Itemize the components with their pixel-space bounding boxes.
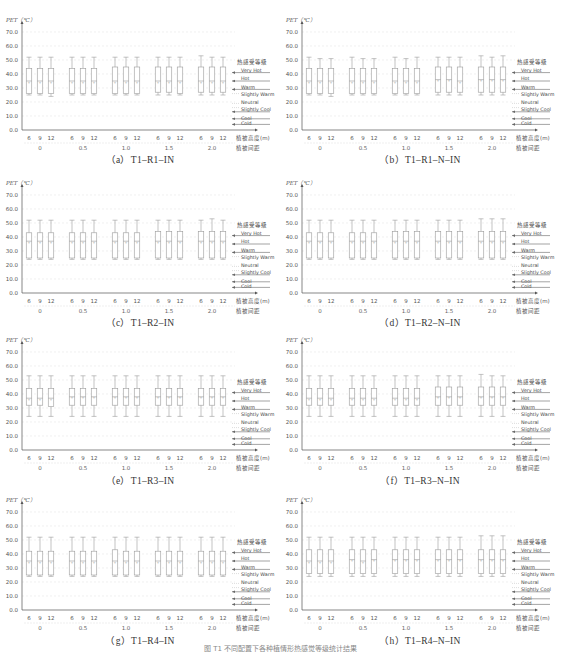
box-0.5-6: +: [349, 57, 355, 95]
x-inner-tick-label: 6: [156, 135, 160, 141]
svg-text:+: +: [405, 398, 408, 402]
x-inner-tick-label: 9: [167, 615, 171, 621]
box-1.5-12: +: [177, 376, 183, 417]
box-2.0-9: +: [489, 376, 495, 417]
y-tick-label: 50.0: [286, 537, 299, 543]
x-outer-tick-label: 1.0: [402, 465, 411, 471]
x-inner-tick-label: 6: [436, 455, 440, 461]
x-inner-tick-label: 12: [500, 615, 507, 621]
x-outer-tick-label: 1.5: [165, 465, 174, 471]
svg-text:+: +: [330, 241, 333, 245]
legend-item-hot: Hot: [241, 396, 250, 401]
x-inner-tick-label: 9: [38, 298, 42, 304]
x-inner-tick-label: 6: [199, 298, 203, 304]
svg-text:热感受等级: 热感受等级: [517, 378, 547, 386]
svg-text:+: +: [93, 81, 96, 85]
x-inner-axis-label: 植被高度(m): [236, 614, 270, 622]
x-inner-tick-label: 12: [457, 615, 464, 621]
y-tick-label: 40.0: [6, 391, 19, 397]
svg-text:+: +: [330, 561, 333, 565]
x-inner-tick-label: 9: [447, 135, 451, 141]
x-inner-tick-label: 9: [490, 298, 494, 304]
svg-text:+: +: [39, 561, 42, 565]
x-inner-tick-label: 12: [500, 455, 507, 461]
legend-item-slightly-cool: Slightly Cool: [521, 107, 551, 112]
x-inner-tick-label: 12: [328, 298, 335, 304]
x-outer-tick-label: 1.5: [445, 465, 454, 471]
box-1.5-6: +: [435, 537, 441, 576]
y-tick-label: 30.0: [286, 565, 299, 571]
svg-text:+: +: [319, 398, 322, 402]
legend-item-slightly-warm: Slightly Warm: [521, 255, 555, 260]
box-0.5-9: +: [360, 220, 366, 259]
x-inner-tick-label: 6: [113, 455, 117, 461]
x-inner-tick-label: 6: [350, 615, 354, 621]
x-inner-tick-label: 12: [457, 135, 464, 141]
legend-item-cool: Cool: [521, 279, 532, 284]
box-0.5-9: +: [360, 59, 366, 95]
x-inner-tick-label: 6: [436, 135, 440, 141]
svg-text:+: +: [50, 561, 53, 565]
svg-text:+: +: [373, 241, 376, 245]
y-tick-label: 40.0: [286, 391, 299, 397]
y-tick-label: 40.0: [286, 234, 299, 240]
legend-item-slightly-warm: Slightly Warm: [521, 92, 555, 97]
legend-item-warm: Warm: [521, 405, 535, 410]
x-outer-tick-label: 1.5: [445, 308, 454, 314]
x-outer-axis-label: 植被间距: [516, 624, 540, 632]
box-1.5-12: +: [457, 537, 463, 576]
box-plot: PET（℃）70.060.050.040.030.020.010.00.0+6+…: [0, 482, 280, 632]
svg-text:+: +: [71, 396, 74, 400]
x-inner-tick-label: 6: [350, 135, 354, 141]
legend-item-slightly-warm: Slightly Warm: [241, 412, 275, 417]
y-tick-label: 70.0: [6, 349, 19, 355]
legend-item-warm: Warm: [241, 85, 255, 90]
svg-text:+: +: [351, 81, 354, 85]
y-tick-label: 30.0: [286, 85, 299, 91]
box-1.5-9: +: [166, 376, 172, 417]
svg-text:+: +: [416, 398, 419, 402]
x-inner-tick-label: 6: [436, 298, 440, 304]
y-tick-label: 70.0: [6, 29, 19, 35]
box-plot: PET（℃）70.060.050.040.030.020.010.00.0+6+…: [280, 322, 560, 472]
x-inner-tick-label: 9: [81, 135, 85, 141]
legend-item-cool: Cool: [241, 279, 252, 284]
svg-text:+: +: [491, 241, 494, 245]
box-1.0-12: +: [414, 220, 420, 259]
box-0-12: +: [48, 57, 54, 96]
box-0.5-12: +: [91, 537, 97, 576]
x-inner-tick-label: 6: [479, 135, 483, 141]
x-inner-tick-label: 6: [113, 615, 117, 621]
svg-text:+: +: [114, 561, 117, 565]
x-inner-axis-label: 植被高度(m): [236, 297, 270, 305]
x-inner-tick-label: 6: [479, 455, 483, 461]
box-plot: PET（℃）70.060.050.040.030.020.010.00.0+6+…: [0, 2, 280, 152]
chart-panel-g: PET（℃）70.060.050.040.030.020.010.00.0+6+…: [0, 482, 280, 642]
chart-panel-e: PET（℃）70.060.050.040.030.020.010.00.0+6+…: [0, 322, 280, 482]
y-tick-label: 0.0: [9, 607, 18, 613]
x-inner-tick-label: 9: [124, 135, 128, 141]
figure-caption: 图 T1 不同配置下各种植情形热感觉等级统计结果: [0, 643, 561, 652]
legend-item-warm: Warm: [521, 85, 535, 90]
svg-text:+: +: [373, 398, 376, 402]
box-0.5-6: +: [349, 376, 355, 417]
svg-text:+: +: [157, 81, 160, 85]
svg-text:+: +: [28, 561, 31, 565]
y-tick-label: 10.0: [286, 276, 299, 282]
y-tick-label: 60.0: [286, 523, 299, 529]
y-tick-label: 30.0: [6, 405, 19, 411]
x-inner-tick-label: 9: [38, 615, 42, 621]
x-inner-tick-label: 6: [199, 135, 203, 141]
x-inner-tick-label: 6: [479, 298, 483, 304]
y-tick-label: 20.0: [286, 262, 299, 268]
x-inner-tick-label: 9: [490, 455, 494, 461]
box-0-6: +: [306, 220, 312, 259]
box-0.5-6: +: [69, 376, 75, 417]
svg-text:+: +: [394, 398, 397, 402]
legend-item-slightly-warm: Slightly Warm: [241, 255, 275, 260]
box-0.5-9: +: [80, 537, 86, 576]
x-outer-tick-label: 2.0: [208, 465, 217, 471]
x-inner-tick-label: 9: [81, 455, 85, 461]
y-tick-label: 20.0: [6, 579, 19, 585]
box-0.5-9: +: [80, 220, 86, 259]
